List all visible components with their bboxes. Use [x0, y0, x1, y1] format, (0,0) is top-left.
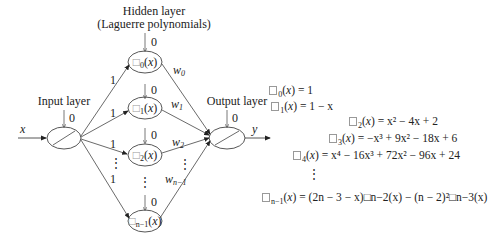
hidden-0-bias: 0 — [151, 35, 157, 49]
weight-out-n: wn−1 — [165, 172, 186, 187]
laguerre-symbol — [271, 102, 279, 111]
equation-recurrence: n−1(x) = (2n − 3 − x)□n−2(x) − (n − 2)²□… — [262, 191, 487, 206]
edge-input-hidden-n — [81, 140, 129, 218]
laguerre-symbol — [262, 193, 270, 202]
output-node-slash — [215, 131, 239, 145]
equation-3: 3(x) = −x³ + 9x² − 18x + 6 — [329, 132, 457, 147]
equation-2: 2(x) = x² − 4x + 2 — [349, 115, 438, 130]
weight-in-1: 1 — [110, 106, 116, 120]
hidden-layer-subtitle: (Laguerre polynomials) — [97, 17, 211, 31]
hidden-1-bias: 0 — [151, 83, 157, 97]
equation-0: 0(x) = 1 — [269, 84, 313, 99]
laguerre-symbol — [349, 117, 357, 126]
hidden-layer-title: Hidden layer — [123, 4, 185, 18]
equation-4: 4(x) = x⁴ − 16x³ + 72x² − 96x + 24 — [293, 149, 460, 164]
input-bias-label: 0 — [69, 111, 75, 125]
hidden-node-n-1-label: □n−1(x) — [128, 214, 161, 229]
equation-ellipsis: ⋮ — [308, 167, 320, 181]
input-layer-title: Input layer — [38, 94, 90, 108]
weight-in-n: 1 — [110, 172, 116, 186]
hidden-n-bias: 0 — [151, 195, 157, 209]
output-bias-label: 0 — [232, 111, 238, 125]
edge-hidden-2-output — [162, 138, 209, 153]
weight-in-0: 1 — [110, 73, 116, 87]
output-y-label: y — [251, 122, 258, 136]
hidden-node-2-label: □2(x) — [133, 148, 158, 163]
hidden-node-1-label: □1(x) — [133, 101, 158, 116]
output-layer-title: Output layer — [207, 94, 267, 108]
equation-1: 1(x) = 1 − x — [271, 100, 333, 115]
laguerre-symbol — [329, 134, 337, 143]
hidden-ellipsis: ⋮ — [139, 175, 151, 189]
weight-in-ellipsis: ⋮ — [110, 156, 122, 170]
laguerre-symbol — [269, 86, 277, 95]
input-x-label: x — [19, 122, 26, 136]
laguerre-symbol — [293, 151, 301, 160]
hidden-2-bias: 0 — [151, 128, 157, 142]
hidden-node-0-label: □0(x) — [133, 55, 158, 70]
weight-out-2: w2 — [172, 135, 184, 150]
weight-out-0: w0 — [173, 63, 185, 78]
weight-out-1: w1 — [171, 97, 183, 112]
edge-hidden-0-output — [162, 64, 210, 134]
weight-in-2: 1 — [110, 137, 116, 151]
weight-out-ellipsis: ⋮ — [179, 157, 191, 171]
edge-input-hidden-1 — [81, 111, 128, 137]
input-node-slash — [53, 131, 75, 145]
